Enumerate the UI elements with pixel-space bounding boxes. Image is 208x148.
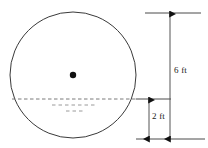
figure-canvas: 6 ft 2 ft xyxy=(0,0,208,148)
center-point xyxy=(70,72,76,78)
dimension-label-six-ft: 6 ft xyxy=(174,66,187,75)
dimension-label-two-ft: 2 ft xyxy=(152,112,165,121)
